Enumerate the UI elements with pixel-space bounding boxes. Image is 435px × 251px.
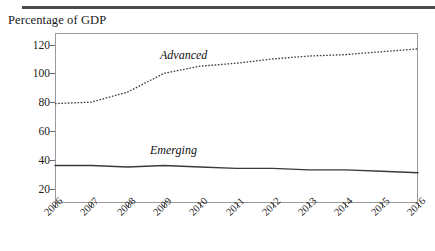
plot-frame <box>55 33 418 203</box>
y-tick-label: 100 <box>16 67 50 79</box>
chart-plot-area: 20406080100120 Advanced Emerging 2006200… <box>0 0 435 251</box>
series-label-emerging: Emerging <box>150 143 197 158</box>
y-tick-mark <box>50 102 55 103</box>
y-axis: 20406080100120 <box>0 0 50 251</box>
y-tick-label: 20 <box>16 183 50 195</box>
series-label-advanced: Advanced <box>160 48 207 63</box>
y-tick-label: 80 <box>16 96 50 108</box>
y-tick-label: 120 <box>16 39 50 51</box>
y-tick-mark <box>50 160 55 161</box>
y-tick-mark <box>50 189 55 190</box>
y-tick-mark <box>50 73 55 74</box>
y-tick-mark <box>50 45 55 46</box>
y-tick-mark <box>50 131 55 132</box>
y-tick-label: 60 <box>16 125 50 137</box>
y-tick-label: 40 <box>16 154 50 166</box>
